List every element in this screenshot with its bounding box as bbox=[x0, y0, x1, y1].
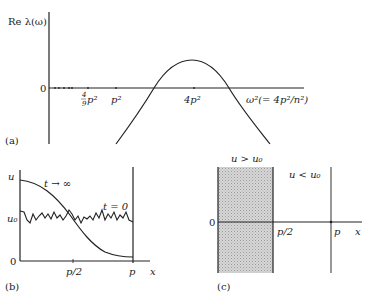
c-zero: 0 bbox=[209, 217, 215, 228]
b-t-inf: t → ∞ bbox=[44, 178, 71, 189]
c-below: u < u₀ bbox=[289, 169, 321, 180]
a-tick3: 4p² bbox=[183, 94, 201, 105]
c-shaded-region bbox=[218, 167, 273, 273]
a-zero-label: 0 bbox=[40, 83, 46, 94]
b-p: p bbox=[129, 266, 136, 277]
c-x: x bbox=[355, 226, 361, 237]
figure: Re λ(ω) 0 4 9 p² p² 4p² ω²(= 4p²/n²) (a)… bbox=[0, 0, 372, 307]
b-half: p/2 bbox=[66, 266, 82, 277]
panel-a: Re λ(ω) 0 4 9 p² p² 4p² ω²(= 4p²/n²) (a) bbox=[5, 12, 308, 146]
b-t0: t = 0 bbox=[103, 201, 129, 212]
b-zero: 0 bbox=[10, 256, 16, 267]
panel-b: u u₀ 0 p/2 p x t → ∞ t = 0 (b) bbox=[5, 167, 156, 292]
a-xlabel: ω²(= 4p²/n²) bbox=[246, 94, 308, 105]
b-x: x bbox=[150, 266, 156, 277]
b-ylabel: u bbox=[8, 171, 14, 182]
c-p: p bbox=[334, 226, 341, 237]
b-u0: u₀ bbox=[7, 213, 17, 224]
a-panel-label: (a) bbox=[5, 135, 19, 146]
b-panel-label: (b) bbox=[5, 281, 19, 292]
a-tick2: p² bbox=[111, 94, 121, 105]
c-half: p/2 bbox=[277, 226, 293, 237]
a-ylabel: Re λ(ω) bbox=[8, 16, 47, 27]
panel-c: 0 p/2 p x u > u₀ u < u₀ (c) bbox=[209, 153, 362, 292]
a-tick1-num: 4 bbox=[81, 91, 86, 99]
c-above: u > u₀ bbox=[231, 153, 263, 164]
c-panel-label: (c) bbox=[217, 281, 231, 292]
a-tick1-var: p² bbox=[87, 94, 97, 105]
